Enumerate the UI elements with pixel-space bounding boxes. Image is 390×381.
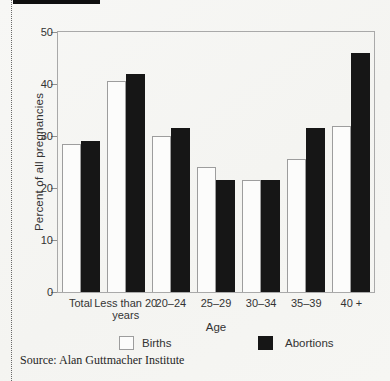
y-tick-label: 40: [27, 78, 53, 90]
bar-abortions: [351, 53, 370, 292]
bar-births: [107, 81, 126, 292]
y-tick-label: 50: [27, 26, 53, 38]
x-category-label: 40 +: [319, 297, 383, 309]
bar-births: [242, 180, 261, 292]
bar-abortions: [306, 128, 325, 292]
y-tick-label: 10: [27, 234, 53, 246]
bar-births: [332, 126, 351, 292]
page-edge-dotted-line: [11, 0, 12, 381]
plot-area: Percent of all pregnancies Age 010203040…: [57, 31, 375, 293]
bar-abortions: [261, 180, 280, 292]
legend-births-label: Births: [142, 337, 171, 349]
legend-abortions-swatch: [258, 336, 273, 350]
y-tick-label: 30: [27, 130, 53, 142]
bar-births: [62, 144, 81, 292]
scanned-chart-page: Percent of all pregnancies Age 010203040…: [0, 0, 390, 381]
bar-abortions: [126, 74, 145, 292]
bar-births: [152, 136, 171, 292]
x-axis-title: Age: [206, 321, 226, 333]
bar-births: [197, 167, 216, 292]
bar-births: [287, 159, 306, 292]
bar-abortions: [81, 141, 100, 292]
legend-births-swatch: [119, 336, 134, 350]
legend-abortions-label: Abortions: [285, 337, 334, 349]
y-axis-title: Percent of all pregnancies: [33, 93, 45, 231]
bar-abortions: [216, 180, 235, 292]
heading-underline-rule: [13, 0, 100, 4]
chart-legend: Births Abortions: [0, 333, 390, 355]
source-caption: Source: Alan Guttmacher Institute: [20, 353, 184, 368]
bar-abortions: [171, 128, 190, 292]
y-tick-label: 20: [27, 182, 53, 194]
